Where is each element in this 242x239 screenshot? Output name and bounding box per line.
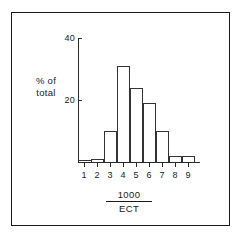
histogram-bar-1 (78, 160, 91, 162)
figure-frame-border: 40 20 1 2 3 4 5 6 7 8 9 (11, 12, 230, 226)
x-tick-label-4: 4 (117, 170, 129, 180)
y-tick-mark-20 (78, 100, 82, 101)
x-tick-mark-7 (162, 163, 163, 167)
x-tick-label-5: 5 (130, 170, 142, 180)
y-axis-label-line1: % of (36, 75, 56, 86)
histogram-bar-9 (182, 156, 195, 162)
x-tick-mark-5 (136, 163, 137, 167)
x-tick-mark-2 (97, 163, 98, 167)
y-tick-mark-40 (78, 38, 82, 39)
histogram-bar-6 (143, 103, 156, 162)
x-tick-label-6: 6 (143, 170, 155, 180)
histogram-bar-3 (104, 131, 117, 162)
histogram-bar-8 (169, 156, 182, 162)
x-tick-mark-3 (110, 163, 111, 167)
histogram-bar-4 (117, 66, 130, 162)
x-tick-label-7: 7 (156, 170, 168, 180)
x-axis-label: 1000 ECT (106, 189, 152, 215)
figure-canvas: 40 20 1 2 3 4 5 6 7 8 9 (0, 0, 242, 239)
y-axis-label-line2: total (36, 87, 55, 98)
histogram-bar-2 (91, 159, 104, 162)
y-tick-label-40: 40 (51, 33, 75, 43)
x-tick-mark-1 (84, 163, 85, 167)
x-tick-label-8: 8 (169, 170, 181, 180)
x-tick-label-1: 1 (78, 170, 90, 180)
x-tick-mark-6 (149, 163, 150, 167)
histogram-bar-7 (156, 131, 169, 162)
x-tick-label-3: 3 (104, 170, 116, 180)
x-axis-label-numerator: 1000 (106, 189, 152, 202)
x-tick-mark-4 (123, 163, 124, 167)
histogram-bar-5 (130, 88, 143, 162)
x-tick-label-9: 9 (182, 170, 194, 180)
y-axis-label: % of total (20, 75, 72, 99)
x-tick-mark-8 (175, 163, 176, 167)
x-tick-mark-9 (188, 163, 189, 167)
x-tick-label-2: 2 (91, 170, 103, 180)
x-axis-label-denominator: ECT (106, 202, 152, 215)
